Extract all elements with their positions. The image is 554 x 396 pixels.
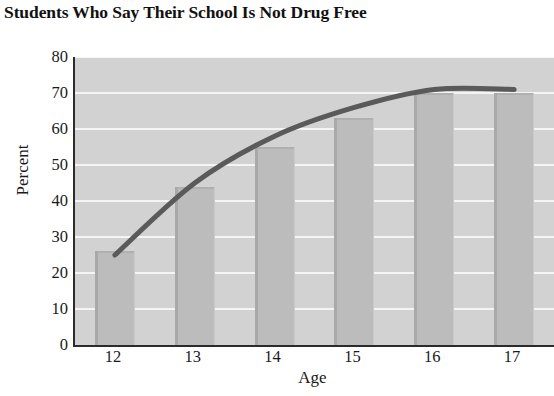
y-tick-label: 20 [30,265,68,282]
x-tick-label: 12 [83,347,143,368]
x-tick-label: 16 [402,347,462,368]
y-tick-label: 80 [30,49,68,66]
trend-line-path [115,88,514,255]
x-tick-label: 13 [163,347,223,368]
y-tick-label: 10 [30,301,68,318]
plot-area [73,57,554,347]
y-axis-tick-labels: 01020304050607080 [30,57,68,345]
trend-curve [75,57,554,345]
y-tick-label: 40 [30,193,68,210]
x-tick-label: 14 [243,347,303,368]
chart-title: Students Who Say Their School Is Not Dru… [4,2,548,23]
y-tick-label: 30 [30,229,68,246]
y-tick-label: 0 [30,337,68,354]
y-tick-label: 50 [30,157,68,174]
y-tick-label: 60 [30,121,68,138]
x-tick-label: 17 [482,347,542,368]
x-axis-title: Age [73,368,552,388]
y-tick-label: 70 [30,85,68,102]
x-tick-label: 15 [322,347,382,368]
